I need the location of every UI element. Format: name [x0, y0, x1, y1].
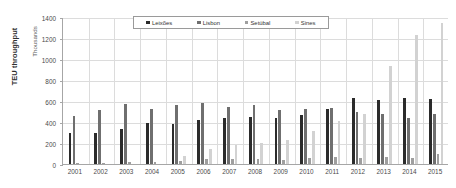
y-axis-title: TEU throughput [10, 0, 19, 117]
bar-group [346, 18, 372, 164]
bar [352, 98, 355, 164]
bar [172, 124, 175, 164]
y-axis-tick-label: 600 [22, 99, 56, 106]
bar [411, 158, 414, 164]
bar [330, 108, 333, 164]
bar [377, 100, 380, 164]
chart-legend: LeixõesLisbonSetúbalSines [133, 16, 329, 29]
bar [197, 120, 200, 164]
bar [286, 140, 289, 164]
x-axis-tick-label: 2006 [191, 168, 217, 175]
x-axis-tick-label: 2011 [319, 168, 345, 175]
bar [282, 160, 285, 164]
bar-group [320, 18, 346, 164]
legend-swatch-icon [197, 21, 201, 25]
x-axis-tick-label: 2010 [294, 168, 320, 175]
x-axis-tick-label: 2007 [216, 168, 242, 175]
bar [278, 110, 281, 164]
x-axis-tick-label: 2002 [88, 168, 114, 175]
bar-group [269, 18, 295, 164]
bar [389, 66, 392, 164]
bar [235, 145, 238, 164]
y-axis-tick-label: 1400 [22, 15, 56, 22]
x-axis-tick-label: 2005 [165, 168, 191, 175]
x-axis-tick-label: 2013 [371, 168, 397, 175]
y-axis-tick-label: 200 [22, 141, 56, 148]
y-axis-tick [60, 165, 63, 166]
bar [437, 154, 440, 164]
bar-group [372, 18, 398, 164]
bar [338, 121, 341, 164]
legend-item: Lisbon [197, 20, 220, 26]
bar [407, 118, 410, 164]
bar-group [89, 18, 115, 164]
legend-item: Setúbal [245, 20, 271, 26]
y-axis-tick-label: 800 [22, 78, 56, 85]
x-axis-tick-label: 2008 [242, 168, 268, 175]
bar [253, 105, 256, 164]
legend-item-label: Lisbon [203, 20, 220, 26]
x-axis-tick-label: 2009 [268, 168, 294, 175]
y-axis-tick-label: 1000 [22, 57, 56, 64]
bar [179, 161, 182, 164]
legend-swatch-icon [295, 21, 299, 25]
bar [260, 143, 263, 164]
x-axis-tick-label: 2001 [62, 168, 88, 175]
bar [385, 157, 388, 164]
legend-item-label: Leixões [152, 20, 172, 26]
bar-group [217, 18, 243, 164]
bar [76, 163, 79, 164]
legend-item-label: Setúbal [250, 20, 270, 26]
x-axis-tick-label: 2015 [422, 168, 448, 175]
bar [120, 129, 123, 164]
legend-item: Sines [295, 20, 315, 26]
bar [300, 115, 303, 164]
bar-chart: TEU throughput Thousands 020040060080010… [0, 0, 456, 188]
bar [231, 159, 234, 164]
bar [415, 35, 418, 164]
bar [73, 116, 76, 164]
bar [304, 109, 307, 164]
bar-group [140, 18, 166, 164]
bar [403, 98, 406, 164]
bar [308, 158, 311, 164]
bar [98, 110, 101, 164]
bar [205, 159, 208, 164]
plot-area [62, 18, 448, 165]
bar [128, 162, 131, 164]
bar [175, 105, 178, 164]
legend-swatch-icon [146, 21, 150, 25]
bar [257, 159, 260, 164]
x-axis-tick-label: 2003 [113, 168, 139, 175]
legend-swatch-icon [245, 21, 249, 25]
bar-group [63, 18, 89, 164]
bar [326, 109, 329, 164]
x-axis-tick-label: 2004 [139, 168, 165, 175]
legend-item-label: Sines [301, 20, 316, 26]
x-axis-tick-label: 2012 [345, 168, 371, 175]
bar [69, 133, 72, 164]
bar [209, 149, 212, 164]
bar-group [243, 18, 269, 164]
bar [433, 114, 436, 164]
bar [441, 23, 444, 164]
bar [102, 163, 105, 164]
bar [227, 107, 230, 164]
y-axis-tick-label: 0 [22, 162, 56, 169]
bar-group [114, 18, 140, 164]
bar [124, 104, 127, 164]
bar-group [398, 18, 424, 164]
bar [201, 103, 204, 164]
bar-group [295, 18, 321, 164]
bar-group [192, 18, 218, 164]
bar-group [423, 18, 449, 164]
bar [223, 118, 226, 164]
bar-group [166, 18, 192, 164]
bar [150, 109, 153, 164]
bar [334, 157, 337, 164]
bar [359, 158, 362, 164]
bar [154, 162, 157, 164]
bar [429, 99, 432, 164]
bar [94, 133, 97, 165]
x-axis-tick-label: 2014 [397, 168, 423, 175]
